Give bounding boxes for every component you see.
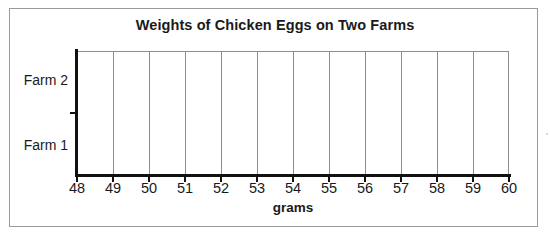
gridline	[473, 52, 474, 176]
gridline	[257, 52, 258, 176]
x-axis-tick-label: 51	[165, 180, 205, 196]
gridline	[113, 52, 114, 176]
y-axis-category-label: Farm 2	[0, 72, 68, 88]
x-axis-tick-label: 60	[489, 180, 529, 196]
x-axis-tick-label: 56	[345, 180, 385, 196]
x-axis-tick-label: 54	[273, 180, 313, 196]
x-axis-tick-label: 49	[93, 180, 133, 196]
gridline	[401, 52, 402, 176]
x-axis-tick-label: 48	[57, 180, 97, 196]
y-axis-tick	[70, 112, 76, 114]
gridline	[365, 52, 366, 176]
gridline	[185, 52, 186, 176]
scan-artifact-speck	[546, 133, 548, 135]
x-axis-tick-label: 57	[381, 180, 421, 196]
x-axis-label: grams	[77, 200, 509, 215]
gridline	[437, 52, 438, 176]
gridline	[221, 52, 222, 176]
chart-title: Weights of Chicken Eggs on Two Farms	[0, 17, 550, 33]
chart-figure: Weights of Chicken Eggs on Two Farms gra…	[0, 0, 550, 235]
x-axis-tick-label: 50	[129, 180, 169, 196]
plot-area	[77, 51, 509, 175]
x-axis-tick-label: 58	[417, 180, 457, 196]
x-axis-tick-label: 52	[201, 180, 241, 196]
gridline	[149, 52, 150, 176]
gridline	[329, 52, 330, 176]
y-axis-category-label: Farm 1	[0, 137, 68, 153]
gridline	[293, 52, 294, 176]
x-axis-tick-label: 59	[453, 180, 493, 196]
x-axis-tick-label: 55	[309, 180, 349, 196]
x-axis-tick-label: 53	[237, 180, 277, 196]
